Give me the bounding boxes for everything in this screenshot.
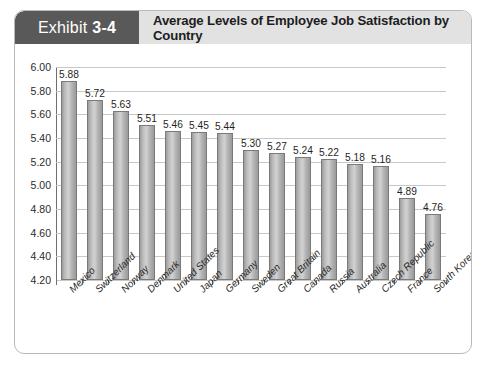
bar[interactable] [61,81,77,280]
exhibit-label: Exhibit [38,19,87,37]
y-axis-tick-label: 4.40 [31,250,51,262]
bar-slot: 5.51 [134,67,160,280]
y-axis-tick-label: 5.00 [31,179,51,191]
page-title: Average Levels of Employee Job Satisfact… [139,11,471,44]
exhibit-tag: Exhibit 3-4 [15,11,139,44]
y-axis-tick-label: 4.60 [31,227,51,239]
bar-value-label: 5.30 [241,138,261,149]
plot-region: 6.005.805.605.405.205.004.804.604.404.20… [56,67,446,280]
bar-value-label: 5.18 [345,152,365,163]
bar-slot: 5.88 [56,67,82,280]
bar-series: 5.885.725.635.515.465.455.445.305.275.24… [56,67,446,280]
bar[interactable] [87,100,103,280]
y-axis-tick-label: 6.00 [31,61,51,73]
y-axis-tick-label: 5.20 [31,156,51,168]
bar-value-label: 5.88 [59,69,79,80]
y-axis-tick-label: 5.60 [31,108,51,120]
bar-slot: 5.30 [238,67,264,280]
bar-value-label: 5.51 [137,113,157,124]
bar-value-label: 5.44 [215,121,235,132]
bar-value-label: 5.45 [189,120,209,131]
bar-value-label: 5.72 [85,88,105,99]
exhibit-header: Exhibit 3-4 Average Levels of Employee J… [15,11,471,44]
bar-slot: 5.72 [82,67,108,280]
bar-value-label: 5.46 [163,119,183,130]
bar[interactable] [217,133,233,280]
y-axis-tick-label: 5.40 [31,132,51,144]
bar[interactable] [269,153,285,280]
bar-slot: 5.16 [368,67,394,280]
y-axis-tick-label: 4.80 [31,203,51,215]
bar[interactable] [139,125,155,280]
bar[interactable] [321,159,337,280]
bar-value-label: 4.89 [397,186,417,197]
bar-value-label: 5.27 [267,141,287,152]
chart-area: 6.005.805.605.405.205.004.804.604.404.20… [15,44,471,353]
y-axis-tick-label: 4.20 [31,274,51,286]
bar-slot: 5.22 [316,67,342,280]
bar-slot: 5.46 [160,67,186,280]
exhibit-card: Exhibit 3-4 Average Levels of Employee J… [14,10,472,354]
bar[interactable] [347,164,363,280]
bar-value-label: 5.22 [319,147,339,158]
x-axis-tick [56,280,57,285]
exhibit-number: 3-4 [92,19,116,37]
bar-value-label: 4.76 [423,202,443,213]
bar-value-label: 5.16 [371,154,391,165]
bar-value-label: 5.24 [293,145,313,156]
y-axis-tick-label: 5.80 [31,85,51,97]
bar-slot: 5.18 [342,67,368,280]
bar-value-label: 5.63 [111,99,131,110]
bar-slot: 5.63 [108,67,134,280]
bar-slot: 5.27 [264,67,290,280]
